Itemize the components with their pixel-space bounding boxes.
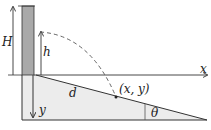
landing-point [115, 96, 118, 99]
label-h: h [43, 46, 51, 58]
tower [22, 6, 34, 75]
projectile-incline-diagram: H h x y d (x, y) θ [0, 0, 211, 130]
label-H: H [2, 36, 12, 48]
label-d: d [69, 87, 77, 99]
label-y-axis: y [39, 104, 46, 116]
ground-block [22, 75, 36, 120]
diagram-graphics [0, 0, 211, 130]
label-point-xy: (x, y) [119, 83, 150, 95]
label-theta: θ [151, 107, 158, 119]
label-x-axis: x [200, 63, 207, 75]
